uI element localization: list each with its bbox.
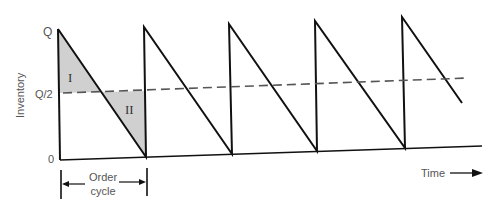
inventory-sawtooth [58,17,462,157]
order-cycle-label-line2: cycle [90,185,115,197]
x-axis-baseline [60,146,482,160]
inventory-diagram: Q Q/2 0 Inventory I II Order cycle Time [0,0,495,209]
order-cycle-label-line1: Order [89,171,117,183]
order-cycle-arrowhead-left-icon [62,181,69,187]
order-cycle-arrowhead-right-icon [139,179,146,185]
y-tick-Q-half: Q/2 [35,88,53,100]
average-inventory-dashed-line [63,78,468,93]
region-II-label: II [125,102,134,117]
time-arrowhead-icon [472,169,483,177]
y-tick-Q: Q [43,25,52,39]
x-axis-label-time: Time [421,167,445,179]
y-axis-label: Inventory [14,72,26,118]
region-I-label: I [68,70,72,85]
y-tick-zero: 0 [48,153,54,165]
